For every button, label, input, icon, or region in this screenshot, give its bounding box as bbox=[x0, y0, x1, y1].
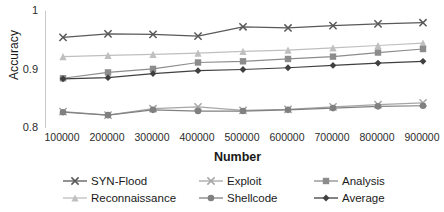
data-point-square-marker bbox=[323, 177, 329, 183]
legend-marker-circle-icon bbox=[198, 192, 224, 204]
data-point-square-marker bbox=[195, 59, 201, 65]
series-reconnaissance bbox=[59, 40, 426, 61]
series-plot bbox=[46, 11, 431, 128]
data-point-circle-marker bbox=[105, 112, 112, 119]
x-axis-tick: 900000 bbox=[394, 131, 444, 143]
chart-legend: SYN-FloodExploitAnalysisReconnaissanceSh… bbox=[62, 172, 422, 206]
data-point-diamond-marker bbox=[323, 194, 330, 201]
legend-marker-square-icon bbox=[313, 175, 339, 187]
data-point-square-marker bbox=[330, 53, 336, 59]
legend-marker-triangle-icon bbox=[62, 192, 88, 204]
legend-label: Exploit bbox=[227, 175, 262, 187]
y-axis-tick: 1 bbox=[10, 4, 38, 16]
data-point-circle-marker bbox=[240, 108, 247, 115]
data-point-circle-marker bbox=[195, 108, 202, 115]
data-point-diamond-marker bbox=[420, 58, 427, 65]
data-point-diamond-marker bbox=[375, 60, 382, 67]
x-axis-title: Number bbox=[45, 150, 430, 164]
y-axis-tick-labels: 10.90.8 bbox=[8, 0, 38, 140]
legend-marker-x-icon bbox=[62, 175, 88, 187]
legend-label: Reconnaissance bbox=[91, 192, 176, 204]
data-point-circle-marker bbox=[208, 194, 215, 201]
x-axis-tick-labels: 1000002000003000004000005000006000007000… bbox=[45, 131, 430, 147]
data-point-circle-marker bbox=[330, 105, 337, 112]
data-point-square-marker bbox=[285, 56, 291, 62]
legend-label: Shellcode bbox=[227, 192, 278, 204]
data-point-square-marker bbox=[240, 58, 246, 64]
series-line bbox=[63, 23, 423, 38]
legend-item-syn-flood[interactable]: SYN-Flood bbox=[62, 175, 198, 187]
data-point-circle-marker bbox=[285, 107, 292, 114]
data-point-circle-marker bbox=[420, 102, 427, 109]
legend-label: SYN-Flood bbox=[91, 175, 147, 187]
data-point-circle-marker bbox=[60, 109, 67, 116]
series-syn-flood bbox=[59, 19, 426, 41]
legend-item-exploit[interactable]: Exploit bbox=[198, 175, 313, 187]
legend-item-average[interactable]: Average bbox=[313, 192, 423, 204]
legend-item-reconnaissance[interactable]: Reconnaissance bbox=[62, 192, 198, 204]
data-point-circle-marker bbox=[150, 107, 157, 114]
data-point-square-marker bbox=[375, 49, 381, 55]
data-point-square-marker bbox=[420, 46, 426, 52]
legend-marker-diamond-icon bbox=[313, 192, 339, 204]
data-point-diamond-marker bbox=[240, 66, 247, 73]
data-point-circle-marker bbox=[375, 103, 382, 110]
legend-item-analysis[interactable]: Analysis bbox=[313, 175, 423, 187]
data-point-diamond-marker bbox=[195, 67, 202, 74]
data-point-diamond-marker bbox=[285, 64, 292, 71]
legend-label: Analysis bbox=[342, 175, 385, 187]
legend-item-shellcode[interactable]: Shellcode bbox=[198, 192, 313, 204]
data-point-diamond-marker bbox=[330, 62, 337, 69]
legend-marker-x-icon bbox=[198, 175, 224, 187]
legend-label: Average bbox=[342, 192, 385, 204]
plot-area bbox=[45, 11, 430, 128]
y-axis-tick: 0.9 bbox=[10, 63, 38, 75]
